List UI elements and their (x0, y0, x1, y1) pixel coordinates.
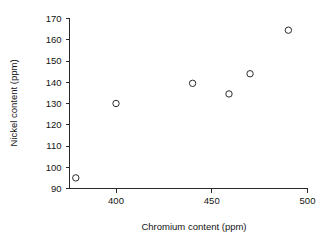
scatter-chart: 90100110120130140150160170 400450500 Chr… (0, 0, 330, 237)
axis-group (70, 19, 308, 189)
data-point (226, 91, 232, 97)
y-tick-label: 170 (46, 13, 62, 24)
x-tick-label: 500 (300, 195, 316, 206)
y-tick-label: 120 (46, 119, 62, 130)
data-point (247, 71, 253, 77)
x-axis-ticks: 400450500 (108, 189, 315, 206)
y-tick-label: 150 (46, 55, 62, 66)
data-point (113, 100, 119, 106)
x-tick-label: 400 (108, 195, 124, 206)
data-point (285, 27, 291, 33)
x-axis-title: Chromium content (ppm) (141, 221, 246, 232)
y-tick-label: 130 (46, 98, 62, 109)
y-tick-label: 90 (51, 183, 62, 194)
x-tick-label: 450 (204, 195, 220, 206)
y-tick-label: 160 (46, 34, 62, 45)
y-axis-title: Nickel content (ppm) (8, 59, 19, 146)
data-points-group (73, 27, 292, 181)
y-axis-ticks: 90100110120130140150160170 (46, 13, 70, 194)
y-tick-label: 110 (46, 140, 61, 151)
data-point (73, 175, 79, 181)
y-tick-label: 100 (46, 162, 62, 173)
data-point (189, 80, 195, 86)
plot-canvas: 90100110120130140150160170 400450500 Chr… (0, 0, 330, 237)
y-tick-label: 140 (46, 77, 62, 88)
